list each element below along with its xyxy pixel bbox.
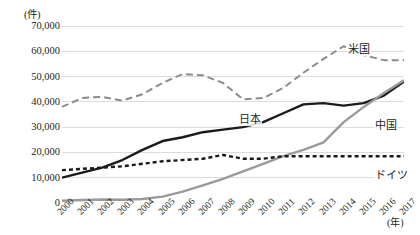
y-axis-unit-label: (件): [24, 6, 40, 21]
series-label-china: 中国: [374, 116, 398, 132]
y-tick-label: 60,000: [2, 46, 60, 56]
series-label-us: 米国: [347, 40, 371, 56]
series-label-germany: ドイツ: [374, 166, 409, 182]
y-tick-label: 40,000: [2, 97, 60, 107]
y-tick-label: 10,000: [2, 173, 60, 183]
y-tick-label: 30,000: [2, 122, 60, 132]
series-line-中国: [62, 80, 404, 200]
x-axis-tick-labels: 2000200120022003200420052006200720082009…: [62, 203, 404, 235]
y-axis-tick-labels: 70,00060,00050,00040,00030,00020,00010,0…: [0, 26, 60, 203]
y-tick-label: 70,000: [2, 21, 60, 31]
y-tick-label: 20,000: [2, 147, 60, 157]
y-tick-label: 50,000: [2, 72, 60, 82]
y-tick-label: 0: [2, 198, 60, 208]
line-chart: (件) (年) 70,00060,00050,00040,00030,00020…: [0, 0, 420, 235]
series-label-japan: 日本: [238, 110, 262, 126]
series-line-日本: [62, 82, 404, 178]
